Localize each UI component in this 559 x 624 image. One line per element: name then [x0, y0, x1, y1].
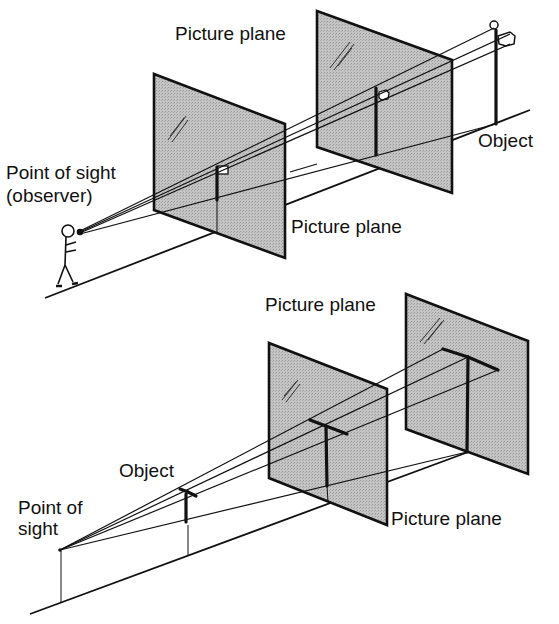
observer-figure-icon: [56, 225, 83, 286]
label-picture-plane-top-near: Picture plane: [291, 216, 402, 237]
label-object-bottom: Object: [119, 460, 174, 481]
label-picture-plane-bottom-near: Picture plane: [391, 508, 502, 529]
label-object-top: Object: [478, 130, 533, 151]
label-point-of-sight-bottom-line2: sight: [18, 518, 58, 539]
label-picture-plane-top-far: Picture plane: [175, 23, 286, 44]
bottom-figure: [30, 294, 528, 614]
label-picture-plane-bottom-far: Picture plane: [265, 294, 376, 315]
ground-line: [45, 110, 530, 298]
label-point-of-sight-top: Point of sight: [6, 162, 116, 183]
label-point-of-sight-bottom-line1: Point of: [18, 497, 82, 518]
label-observer: (observer): [6, 185, 93, 206]
top-figure: [45, 11, 530, 298]
object-stand-far: [490, 21, 515, 124]
